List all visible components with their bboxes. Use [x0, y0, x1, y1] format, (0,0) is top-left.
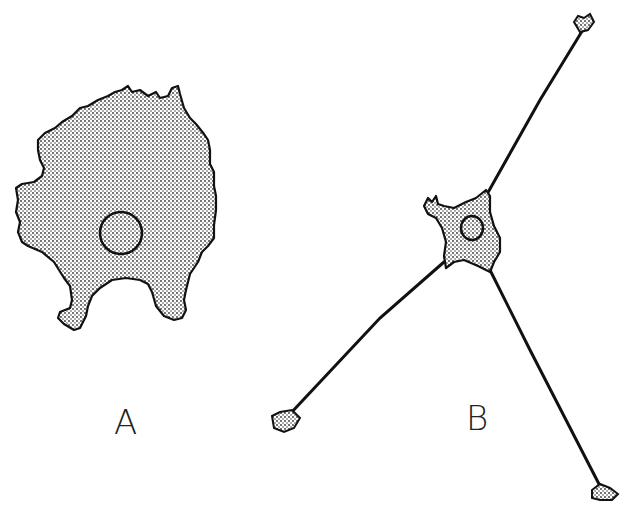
figure-drawing: [0, 0, 634, 525]
cell-a: [16, 86, 216, 330]
cell-b-tip-right: [592, 484, 618, 500]
cell-b-process-lower-left: [290, 262, 444, 414]
cell-b-process-upper: [486, 28, 584, 196]
panel-label-b: B: [466, 398, 488, 438]
cell-b-tip-left: [272, 410, 300, 432]
cell-b: [272, 14, 618, 500]
panel-label-a: A: [114, 402, 137, 442]
cell-b-tip-upper: [574, 14, 594, 32]
cell-a-body: [16, 86, 216, 330]
cell-b-process-lower-right: [490, 270, 600, 486]
cell-figure: A B: [0, 0, 634, 525]
